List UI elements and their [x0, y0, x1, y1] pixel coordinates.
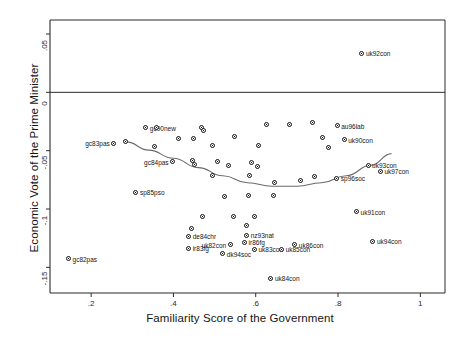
- data-point-marker: [152, 144, 157, 149]
- data-point-marker: [279, 247, 284, 252]
- data-point-marker: [186, 246, 191, 251]
- data-point-label: au96lab: [341, 122, 364, 129]
- y-tick-label: -.05: [40, 150, 49, 174]
- data-point-marker: [256, 143, 261, 148]
- data-point-label: gc83pas: [85, 140, 110, 147]
- data-point-marker: [252, 247, 257, 252]
- data-point-marker: [271, 193, 276, 198]
- data-point-marker: [210, 173, 215, 178]
- data-point-label: ir86fg: [249, 239, 265, 246]
- data-point-marker: [228, 242, 233, 247]
- data-point-label: uk92con: [366, 50, 391, 57]
- data-point-label: gc84pas: [144, 158, 169, 165]
- x-axis-title: Familiarity Score of the Government: [50, 312, 430, 324]
- data-point-marker: [310, 120, 315, 125]
- data-point-marker: [272, 180, 277, 185]
- x-tick-label: .4: [170, 299, 177, 308]
- data-point-label: de84chr: [193, 233, 217, 240]
- data-point-marker: [298, 178, 303, 183]
- data-point-marker: [232, 134, 237, 139]
- data-point-marker: [200, 214, 205, 219]
- data-point-marker: [189, 226, 194, 231]
- data-point-marker: [378, 169, 383, 174]
- scatter-plot-figure: .2.4.6.81.050-.05-.1-.15 uk92conau96labg…: [0, 0, 454, 338]
- data-point-marker: [320, 135, 325, 140]
- data-point-label: uk86con: [299, 241, 324, 248]
- x-tick-label: 1: [418, 299, 422, 308]
- tick-marks: [46, 34, 420, 297]
- data-point-marker: [111, 141, 116, 146]
- data-point-marker: [191, 136, 196, 141]
- x-tick-label: .8: [335, 299, 342, 308]
- data-point-marker: [335, 123, 340, 128]
- data-point-label: uk97con: [384, 168, 409, 175]
- data-point-marker: [255, 164, 260, 169]
- x-tick-label: .6: [252, 299, 259, 308]
- data-point-marker: [231, 214, 236, 219]
- data-point-label: sp85pso: [140, 189, 165, 196]
- data-point-label: sp96soc: [341, 175, 365, 182]
- data-point-label: dk94soc: [227, 250, 251, 257]
- data-point-label: nz93nat: [251, 232, 274, 239]
- data-point-marker: [342, 137, 347, 142]
- data-point-marker: [334, 176, 339, 181]
- y-tick-label: 0: [40, 92, 49, 116]
- data-point-label: uk84con: [275, 275, 300, 282]
- data-point-label: uk94con: [377, 238, 402, 245]
- data-point-label: uk91con: [361, 208, 386, 215]
- data-point-label: uk90con: [348, 136, 373, 143]
- data-point-marker: [192, 162, 197, 167]
- y-tick-label: .05: [40, 34, 49, 58]
- data-point-marker: [242, 240, 247, 245]
- x-tick-label: .2: [88, 299, 95, 308]
- y-axis-title: Economic Vote of the Prime Minister: [28, 38, 40, 278]
- data-point-marker: [244, 233, 249, 238]
- data-point-marker: [366, 163, 371, 168]
- data-point-label: gc82pas: [73, 255, 98, 262]
- y-tick-label: -.15: [40, 267, 49, 291]
- data-point-label: ir83fg: [193, 245, 209, 252]
- data-point-marker: [210, 143, 215, 148]
- y-tick-label: -.1: [40, 209, 49, 233]
